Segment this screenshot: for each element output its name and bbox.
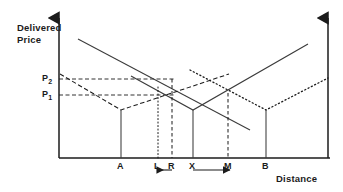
mill-price-schedule-X-line <box>131 44 308 110</box>
tick-label-L: L <box>154 161 160 171</box>
figure-canvas: Delivered Price P2 P1 A L R X M B Distan… <box>0 0 343 192</box>
tick-label-A: A <box>117 161 124 171</box>
price-label-p2: P2 <box>42 73 52 85</box>
y-axis-title-line1: Delivered <box>17 22 87 34</box>
price-label-p2-sub: 2 <box>48 78 52 85</box>
mill-price-schedule-B-line <box>190 70 328 110</box>
tick-label-X: X <box>189 161 195 171</box>
y-axis-title: Delivered Price <box>17 22 87 45</box>
tick-label-M: M <box>224 161 232 171</box>
vertical-drops-group <box>121 79 266 158</box>
price-label-p1: P1 <box>42 89 52 101</box>
basing-point-schedule-from-A-line <box>78 39 250 130</box>
tick-label-B: B <box>262 161 269 171</box>
x-axis-title: Distance <box>276 173 317 185</box>
price-schedules-group <box>60 39 328 130</box>
y-axis-title-line2: Price <box>17 34 87 46</box>
tick-label-R: R <box>168 161 175 171</box>
price-label-p1-sub: 1 <box>48 94 52 101</box>
axes-group <box>59 18 330 158</box>
